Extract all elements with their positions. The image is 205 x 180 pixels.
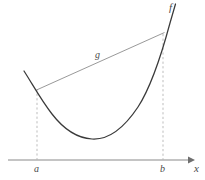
secant-line-g: [37, 33, 165, 91]
function-curve-f: [24, 4, 176, 139]
curve-label-f: f: [169, 2, 172, 13]
axis-tick-label-a: a: [34, 164, 39, 174]
secant-label-g: g: [95, 50, 100, 60]
axis-name-label-x: x: [194, 163, 199, 174]
math-diagram: [0, 0, 205, 180]
axis-tick-label-b: b: [160, 164, 165, 174]
figure-canvas: f g a b x: [0, 0, 205, 180]
